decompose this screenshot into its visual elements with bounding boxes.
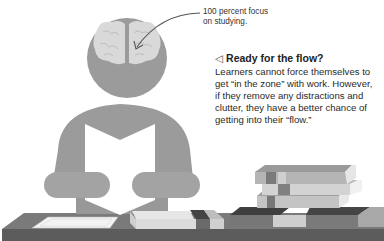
head [87,18,167,98]
left-arm [44,172,110,198]
note-body: Learners cannot force themselves to get … [215,66,384,126]
caption-line: 100 percent focus [203,7,303,17]
person-figure [44,104,200,215]
callout-caption: 100 percent focus on studying. [203,7,303,27]
right-arm [132,172,200,198]
left-triangle-icon: ◁ [215,52,223,64]
note-body-line: clutter, they have a better chance of [215,102,384,114]
note-body-line: if they remove any distractions and [215,90,384,102]
note-heading: Ready for the flow? [226,52,323,64]
note-body-line: Learners cannot force themselves to [215,66,384,78]
note-heading-row: ◁Ready for the flow? [215,52,324,64]
note-body-line: getting into their “flow.” [215,114,384,126]
book-stack-large [230,165,384,227]
note-body-line: get “in the zone” with work. However, [215,78,384,90]
caption-line: on studying. [203,17,303,27]
closed-book [130,211,196,229]
